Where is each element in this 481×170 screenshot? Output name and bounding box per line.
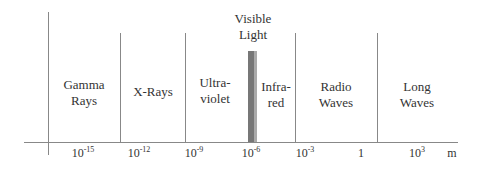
divider-radio-long [377,33,378,142]
divider-ir-radio [295,33,296,142]
region-label-uv: Ultra-violet [199,75,230,107]
region-label-visible: VisibleLight [235,11,272,43]
region-label-gamma: GammaRays [63,77,104,109]
tick-label: 10-3 [296,146,315,160]
visible-light-band [248,51,257,142]
em-spectrum-diagram: GammaRays X-Rays Ultra-violet VisibleLig… [0,0,481,170]
tick-label: 103 [409,146,425,160]
tick-label: 10-9 [185,146,204,160]
region-label-infrared: Infra-red [261,79,291,111]
vertical-axis [48,12,49,155]
divider-xray-uv [185,33,186,142]
tick-label: 10-12 [128,146,151,160]
tick-label: 1 [358,146,364,160]
unit-label: m [447,146,456,160]
divider-gamma-xray [120,33,121,142]
tick-label: 10-6 [242,146,261,160]
tick-label: 10-15 [72,146,95,160]
region-label-radio: RadioWaves [319,79,353,111]
region-label-long: LongWaves [400,79,434,111]
wavelength-axis [24,142,458,143]
region-label-xray: X-Rays [133,84,173,100]
